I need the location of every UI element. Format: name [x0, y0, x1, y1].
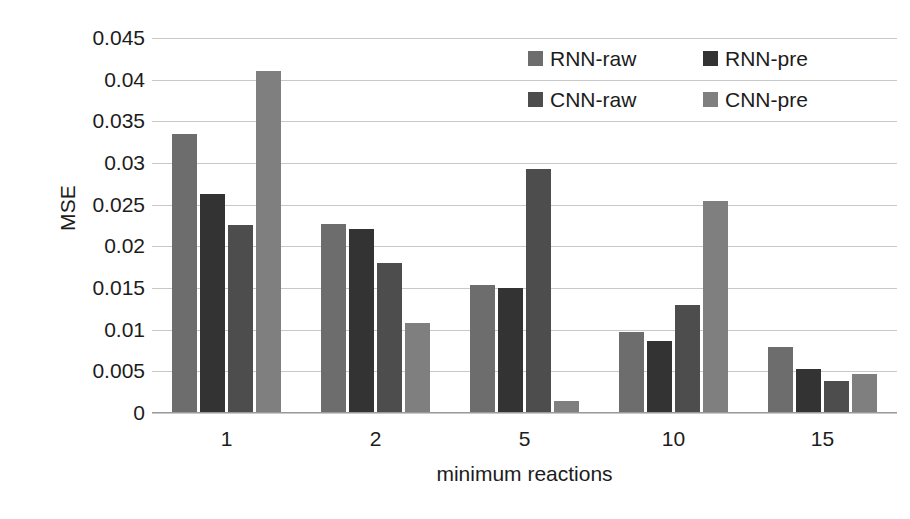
y-axis-tick-label: 0.01 [40, 319, 145, 340]
x-axis-tick-label: 1 [152, 424, 301, 458]
bar[interactable] [498, 288, 523, 413]
legend-swatch-icon [528, 92, 543, 107]
x-axis-line [152, 412, 897, 413]
legend-item[interactable]: RNN-pre [703, 47, 878, 71]
x-axis-tick-label: 5 [450, 424, 599, 458]
y-axis-tick-label: 0.035 [40, 110, 145, 131]
bar-group [301, 38, 450, 413]
y-axis-tick-label: 0.045 [40, 27, 145, 48]
y-axis-tick-label: 0.025 [40, 194, 145, 215]
bar[interactable] [377, 263, 402, 413]
bar[interactable] [228, 225, 253, 413]
bar[interactable] [321, 224, 346, 413]
legend-item[interactable]: RNN-raw [528, 47, 703, 71]
bar[interactable] [349, 229, 374, 413]
bar[interactable] [768, 347, 793, 413]
y-axis-tick-label: 0.02 [40, 235, 145, 256]
legend-item[interactable]: CNN-raw [528, 88, 703, 112]
bar[interactable] [647, 341, 672, 414]
legend-swatch-icon [703, 92, 718, 107]
bar[interactable] [703, 201, 728, 414]
bar-group [152, 38, 301, 413]
bar[interactable] [256, 71, 281, 413]
x-axis-tick-label: 15 [748, 424, 897, 458]
legend-swatch-icon [703, 51, 718, 66]
legend-label: RNN-pre [725, 47, 808, 71]
y-axis-tick-label: 0.03 [40, 152, 145, 173]
legend-swatch-icon [528, 51, 543, 66]
legend-item[interactable]: CNN-pre [703, 88, 878, 112]
bar[interactable] [526, 169, 551, 413]
y-axis-tick-label: 0.005 [40, 360, 145, 381]
bar[interactable] [824, 381, 849, 413]
y-axis-tick-label: 0.04 [40, 69, 145, 90]
bar[interactable] [852, 374, 877, 413]
x-axis-tick-label: 2 [301, 424, 450, 458]
x-axis-title: minimum reactions [152, 462, 897, 486]
legend: RNN-rawRNN-preCNN-rawCNN-pre [528, 38, 878, 120]
bar[interactable] [675, 305, 700, 413]
legend-label: CNN-pre [725, 88, 808, 112]
x-axis-tick-labels: 1251015 [152, 424, 897, 458]
x-axis-tick-label: 10 [599, 424, 748, 458]
bar[interactable] [172, 134, 197, 413]
y-axis-tick-label: 0.015 [40, 277, 145, 298]
y-axis-tick-labels: 00.0050.010.0150.020.0250.030.0350.040.0… [40, 0, 145, 519]
legend-label: RNN-raw [550, 47, 636, 71]
bar[interactable] [796, 369, 821, 413]
bar-chart: MSE 00.0050.010.0150.020.0250.030.0350.0… [0, 0, 910, 519]
bar[interactable] [200, 194, 225, 413]
bar[interactable] [405, 323, 430, 413]
legend-label: CNN-raw [550, 88, 636, 112]
bar[interactable] [470, 285, 495, 413]
bar[interactable] [619, 332, 644, 413]
y-axis-tick-label: 0 [40, 402, 145, 423]
gridline [152, 413, 897, 414]
